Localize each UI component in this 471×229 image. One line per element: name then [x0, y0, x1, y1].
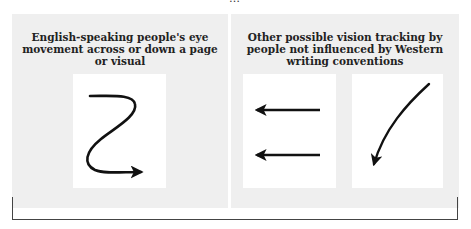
alternative-reading-panel: Other possible vision tracking by people…: [231, 14, 459, 208]
z-path-figure: [73, 74, 166, 188]
diagonal-figure: [352, 74, 443, 188]
grouping-bracket: [12, 197, 458, 220]
z-path-arrow-icon: [73, 74, 166, 188]
curved-down-left-arrow-icon: [352, 74, 443, 188]
english-reading-panel: English-speaking people's eye movement a…: [12, 14, 228, 208]
cropped-top-caption: …: [140, 0, 330, 4]
right-to-left-figure: [243, 74, 336, 188]
english-reading-title: English-speaking people's eye movement a…: [18, 31, 222, 67]
alternative-reading-title: Other possible vision tracking by people…: [237, 31, 453, 67]
double-left-arrow-icon: [243, 74, 336, 188]
